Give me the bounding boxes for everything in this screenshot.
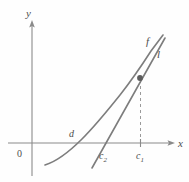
math-diagram-canvas: y x 0 d c2 c1 f l: [0, 0, 189, 182]
curve-label-l: l: [157, 48, 160, 60]
tangent-label-c1-subscript: 1: [140, 156, 144, 164]
intercept-label-c2: c2: [99, 150, 107, 164]
tangent-point-dot: [137, 75, 143, 81]
figure-container: y x 0 d c2 c1 f l: [0, 0, 189, 182]
tangent-line-l: [92, 38, 165, 168]
y-axis-label: y: [25, 7, 31, 19]
origin-label: 0: [17, 148, 22, 159]
tangent-label-c1: c1: [136, 150, 144, 164]
axes-group: [8, 20, 175, 176]
labels-group: y x 0 d c2 c1 f l: [17, 7, 183, 164]
intercept-label-c2-subscript: 2: [103, 156, 107, 164]
tangent-point-group: [137, 75, 143, 81]
root-label-d: d: [69, 128, 75, 139]
curve-label-f: f: [146, 35, 151, 47]
curves-group: [45, 35, 165, 168]
x-axis-label: x: [177, 137, 183, 149]
